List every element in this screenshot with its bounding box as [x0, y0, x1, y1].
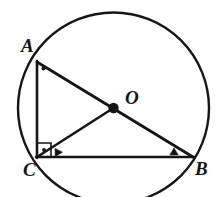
right-angle-dot-at-C: [42, 148, 46, 152]
segment-CO-radius: [37, 108, 114, 157]
center-point-O: [108, 103, 118, 113]
vertex-label-C: C: [23, 160, 36, 179]
vertex-label-O: O: [125, 88, 139, 107]
tick-mark-CB: [170, 148, 178, 155]
angle-dot-at-A: [42, 67, 46, 71]
geometry-figure: A B C O: [0, 0, 223, 197]
vertex-label-B: B: [195, 159, 208, 178]
vertex-label-A: A: [21, 36, 34, 55]
